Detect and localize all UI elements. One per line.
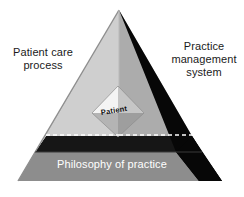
- label-patient-care-process: Patient care process: [4, 46, 82, 72]
- label-practice-management-system: Practice management system: [166, 40, 242, 79]
- pharmaceutical-care-pyramid-figure: Patient care process Practice management…: [0, 0, 244, 197]
- label-philosophy-of-practice: Philosophy of practice: [42, 158, 182, 171]
